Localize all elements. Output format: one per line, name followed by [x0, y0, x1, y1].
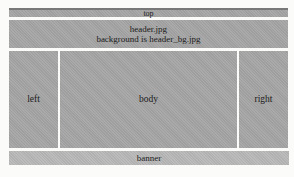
left-column-label: left	[27, 94, 40, 105]
top-bar-region: top	[9, 8, 288, 17]
banner-label: banner	[137, 153, 162, 163]
body-region: body	[60, 51, 237, 148]
right-column-label: right	[255, 94, 273, 105]
layout-wireframe: top header.jpg background is header_bg.j…	[0, 0, 294, 177]
header-label: header.jpg background is header_bg.jpg	[96, 24, 200, 45]
body-label: body	[139, 94, 158, 105]
header-filename: header.jpg	[130, 24, 167, 34]
banner-region: banner	[9, 151, 289, 165]
header-background-note: background is header_bg.jpg	[96, 34, 200, 44]
right-column-region: right	[239, 51, 288, 148]
left-column-region: left	[9, 51, 58, 148]
top-bar-label: top	[143, 9, 153, 18]
header-region: header.jpg background is header_bg.jpg	[9, 20, 288, 48]
